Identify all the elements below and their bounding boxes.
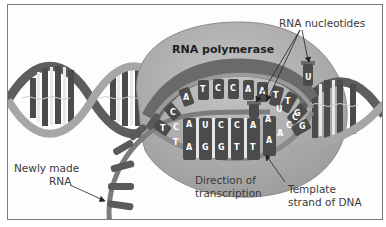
base-letter: U [305, 73, 312, 82]
base-letter: C [173, 123, 179, 132]
template-strand-label-line2: strand of DNA [288, 196, 362, 208]
base-letter: A [277, 129, 284, 138]
transcription-diagram: T C A T C C A A T T G G C A U C C A [0, 0, 386, 227]
base-letter: U [276, 105, 283, 114]
template-strand-label-line1: Template [288, 183, 336, 195]
base-letter: T [173, 138, 179, 147]
base-letter: A [266, 136, 273, 145]
newly-made-rna-label-line2: RNA [49, 175, 71, 187]
base-letter: T [285, 97, 291, 106]
base-letter: C [218, 121, 224, 130]
base-letter: A [186, 120, 193, 129]
base-letter: C [292, 113, 298, 122]
base-letter: G [202, 143, 209, 152]
free-nucleotide [247, 101, 261, 118]
direction-of-transcription-line1: Direction of [195, 174, 256, 186]
free-nucleotide: U [301, 61, 315, 86]
rna-nucleotides-label: RNA nucleotides [279, 17, 365, 29]
rna-polymerase-label: RNA polymerase [172, 44, 274, 56]
base-letter: U [202, 121, 209, 130]
newly-made-rna-label-line1: Newly made [14, 162, 79, 174]
base-letter: A [245, 85, 252, 94]
base-letter: A [250, 121, 257, 130]
base-letter: A [265, 115, 272, 124]
base-letter: C [215, 84, 221, 93]
direction-of-transcription-line2: transcription [195, 187, 262, 199]
base-letter: C [170, 108, 176, 117]
base-letter: C [230, 84, 236, 93]
base-letter: T [200, 85, 206, 94]
base-letter: T [250, 143, 256, 152]
base-letter: G [218, 143, 225, 152]
base-letter: A [186, 143, 193, 152]
base-letter: G [299, 122, 306, 131]
base-letter: C [286, 121, 292, 130]
base-letter: T [160, 124, 166, 133]
base-letter: A [183, 93, 190, 102]
base-letter: T [234, 143, 240, 152]
base-letter: C [234, 121, 240, 130]
base-letter: T [273, 91, 279, 100]
